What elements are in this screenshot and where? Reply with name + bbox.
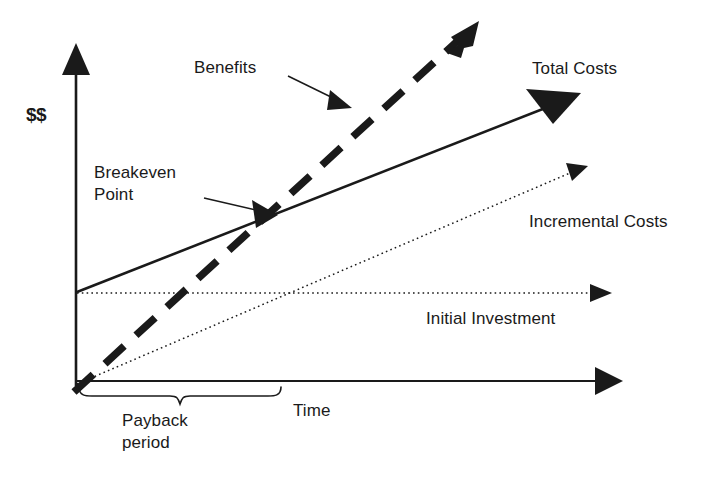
- payback-period-label: Payback period: [122, 410, 188, 454]
- incremental-costs-arrow-icon: [566, 163, 588, 181]
- breakeven-pointer: [204, 198, 278, 228]
- breakeven-chart: [0, 0, 728, 486]
- payback-period-brace-path: [79, 387, 281, 404]
- x-axis-label: Time: [293, 400, 331, 422]
- initial-investment-arrow-icon: [590, 284, 612, 302]
- benefits-pointer-line: [288, 76, 333, 98]
- series-initial-investment: [77, 284, 612, 302]
- series-benefits: [74, 21, 479, 392]
- x-axis-arrow-icon: [595, 367, 623, 395]
- benefits-arrow-icon: [447, 21, 479, 58]
- payback-period-brace: [79, 387, 281, 404]
- total-costs-arrow-icon: [526, 89, 581, 124]
- initial-investment-label: Initial Investment: [426, 308, 555, 330]
- total-costs-label: Total Costs: [532, 58, 617, 80]
- y-axis-arrow-icon: [62, 43, 90, 75]
- benefits-pointer-arrow-icon: [327, 90, 352, 110]
- breakeven-point-label: Breakeven Point: [94, 162, 176, 206]
- benefits-label: Benefits: [194, 57, 256, 79]
- diagram-canvas: $$ Time Benefits Total Costs Incremental…: [0, 0, 728, 486]
- y-axis-label: $$: [26, 104, 46, 126]
- benefits-pointer: [288, 76, 352, 110]
- incremental-costs-label: Incremental Costs: [529, 211, 668, 233]
- breakeven-pointer-line: [204, 198, 256, 210]
